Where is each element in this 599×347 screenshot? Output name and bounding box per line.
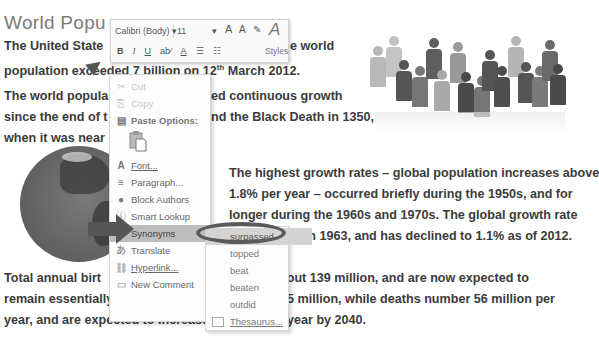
bold-button[interactable]: B [117, 44, 124, 58]
context-menu: ✂ Cut ⎘ Copy ▤ Paste Options: A Font... … [109, 74, 211, 322]
para2-line1: The world popula [4, 86, 108, 107]
menu-item-copy[interactable]: ⎘ Copy [110, 95, 210, 112]
para2-line2-tail: nd the Black Death in 1350, [211, 107, 374, 128]
arrow-right-icon [116, 214, 134, 244]
para3-line4-tail: % in 1963, and has declined to 1.1% as o… [290, 226, 572, 247]
block-authors-icon: ● [115, 191, 127, 208]
menu-item-hyperlink[interactable]: ⛓ Hyperlink... [110, 259, 210, 276]
para1-line1-tail: e world [290, 36, 334, 57]
paragraph-2: The world popula since the end of t when… [4, 86, 108, 149]
para3-line3: longer during the 1960s and 1970s. The g… [229, 205, 599, 226]
ice-shape [62, 152, 92, 162]
highlight-button[interactable]: ab⁄ [160, 44, 172, 58]
synonym-outdid[interactable]: outdid [206, 296, 288, 313]
menu-item-block-authors[interactable]: ● Block Authors [110, 191, 210, 208]
grow-font-button[interactable]: A [225, 23, 232, 35]
numbering-button[interactable]: ☷ [213, 44, 221, 58]
para2-line2: since the end of t [4, 107, 108, 128]
copy-icon: ⎘ [115, 95, 127, 112]
paste-keep-text-icon[interactable] [129, 130, 147, 152]
shrink-font-button[interactable]: A [239, 24, 246, 35]
menu-paste-options-header: ▤ Paste Options: [110, 112, 210, 129]
menu-item-thesaurus[interactable]: Thesaurus... [206, 313, 288, 330]
styles-button[interactable]: Styles [265, 46, 288, 56]
mini-toolbar-row2: B I U ab⁄ A ☰ ☷ [117, 44, 221, 58]
font-size-value: 11 [177, 26, 186, 36]
menu-item-font[interactable]: A Font... [110, 157, 210, 174]
people-crowd-image [368, 30, 568, 110]
menu-item-new-comment[interactable]: ▭ New Comment [110, 276, 210, 293]
menu-item-paragraph[interactable]: ≡ Paragraph... [110, 174, 210, 191]
scissors-icon: ✂ [115, 78, 127, 95]
synonym-beat[interactable]: beat [206, 262, 288, 279]
highlight-ellipse [196, 222, 286, 244]
para4-line2-tail: 5 million, while deaths number 56 millio… [272, 289, 555, 310]
underline-button[interactable]: U [145, 44, 152, 58]
menu-item-translate[interactable]: あ Translate [110, 242, 210, 259]
para2-line1-tail: ed continuous growth [211, 86, 374, 107]
thesaurus-icon [212, 317, 224, 327]
para3-line2: 1.8% per year – occurred briefly during … [229, 184, 599, 205]
styles-icon[interactable]: A [269, 20, 280, 40]
font-name-value: Calibri (Body) [115, 26, 170, 36]
synonym-beaten[interactable]: beaten [206, 279, 288, 296]
mini-toolbar: Calibri (Body) ▾ 11 ▾ A A ✎ A B I U ab⁄ … [110, 19, 289, 63]
para2-tails: ed continuous growth nd the Black Death … [211, 86, 374, 128]
people-reflection [375, 112, 565, 134]
paragraph-3: The highest growth rates – global popula… [229, 163, 599, 226]
bullets-button[interactable]: ☰ [196, 44, 204, 58]
para3-line1: The highest growth rates – global popula… [229, 163, 599, 184]
para2-line3: when it was near [4, 128, 108, 149]
comment-icon: ▭ [115, 276, 127, 293]
para4-tails: about 139 million, and are now expected … [272, 268, 555, 331]
font-color-button[interactable]: A [181, 44, 187, 58]
hyperlink-icon: ⛓ [115, 259, 127, 276]
format-painter-icon[interactable]: ✎ [253, 24, 261, 35]
para4-line1-tail: about 139 million, and are now expected … [272, 268, 555, 289]
translate-icon: あ [115, 242, 127, 259]
document-title: World Popu [4, 12, 106, 34]
chevron-down-icon: ▾ [212, 25, 217, 38]
menu-item-cut[interactable]: ✂ Cut [110, 78, 210, 95]
para4-line3-tail: year by 2040. [272, 310, 555, 331]
italic-button[interactable]: I [133, 44, 136, 58]
font-name-dropdown[interactable]: Calibri (Body) ▾ [115, 25, 174, 38]
font-size-dropdown[interactable]: 11 ▾ [177, 25, 217, 38]
arrow-body [88, 222, 118, 236]
paste-icon: ▤ [115, 112, 127, 129]
synonym-topped[interactable]: topped [206, 245, 288, 262]
paragraph-icon: ≡ [115, 174, 127, 191]
font-icon: A [115, 157, 127, 174]
